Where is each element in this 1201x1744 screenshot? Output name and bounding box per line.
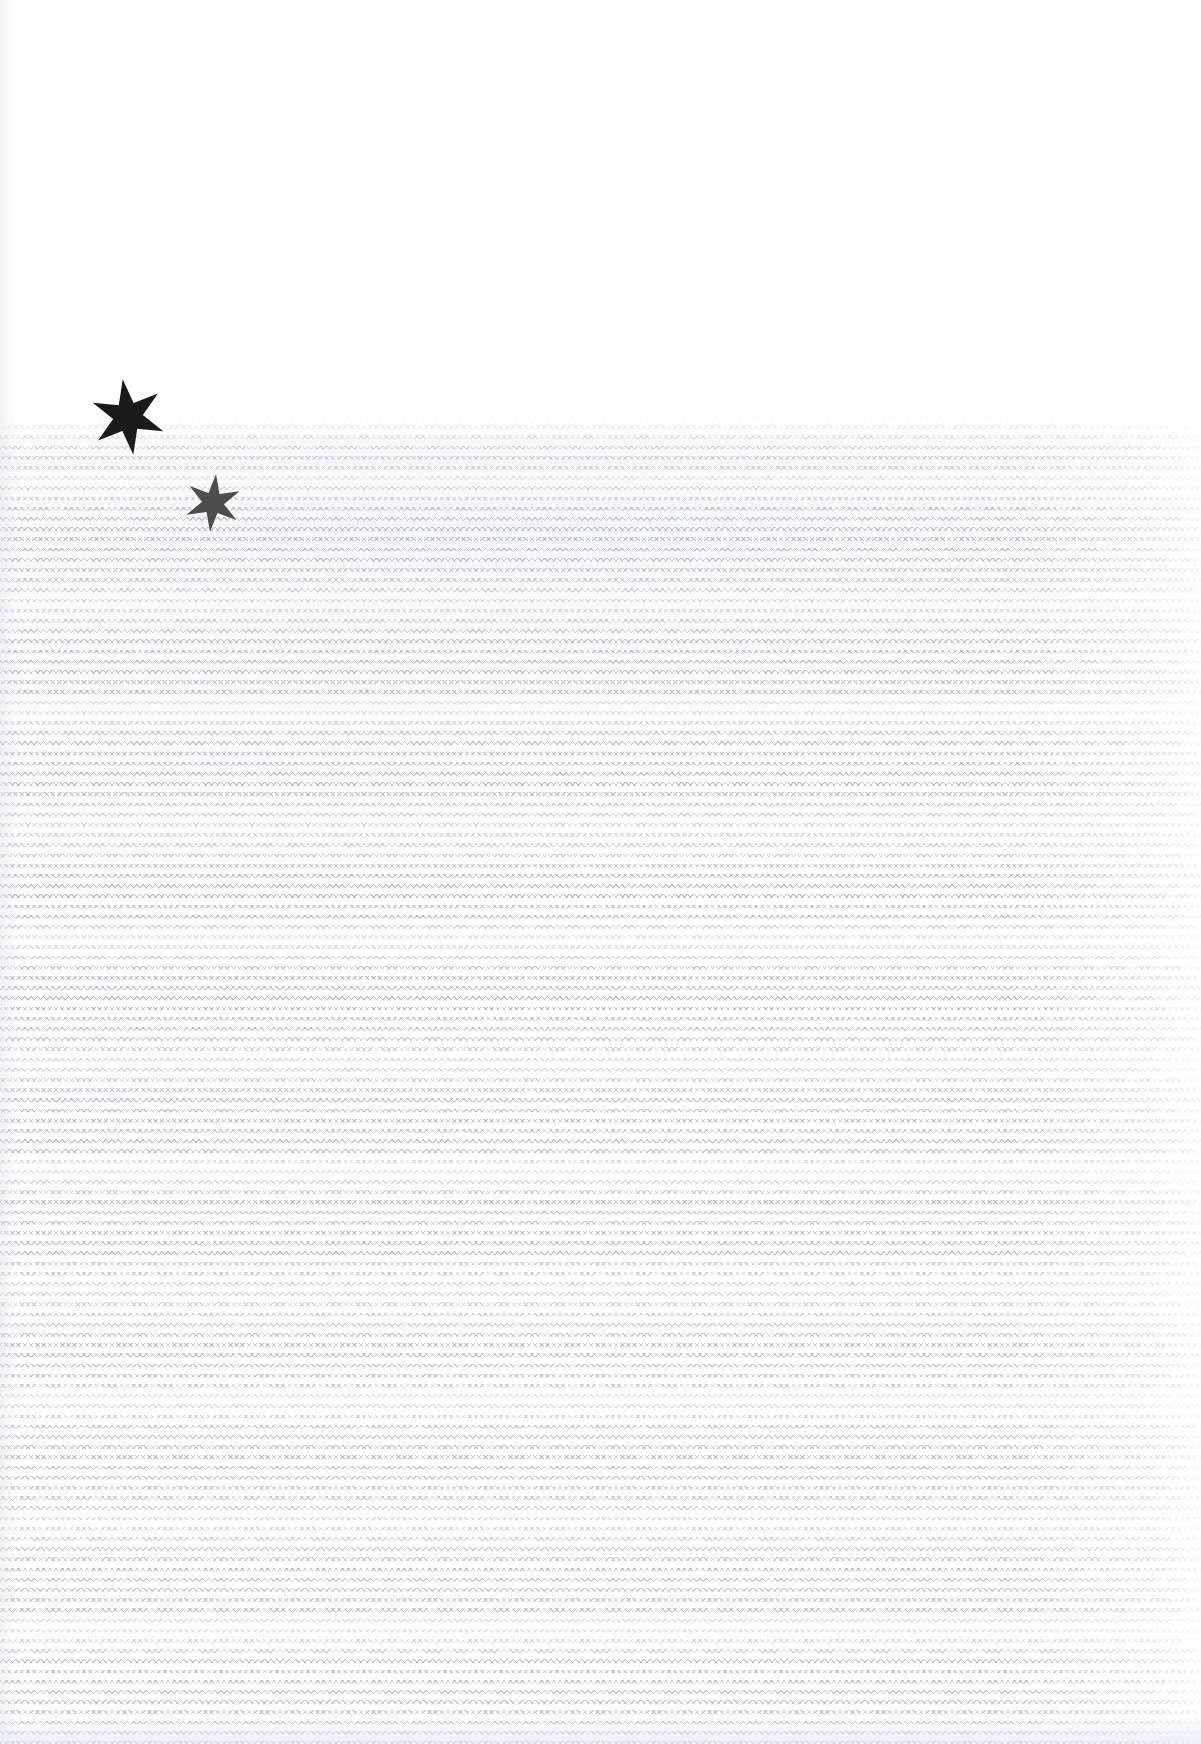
texture-hatch-rows-offset: [0, 415, 1201, 1744]
star-small-shape: [187, 474, 240, 532]
hatched-texture-field: [0, 415, 1201, 1744]
blank-upper-region: [0, 0, 1201, 415]
star-large-shape: [93, 379, 163, 454]
scanned-page: [0, 0, 1201, 1744]
star-mark-small: [178, 468, 248, 538]
star-mark-large: [82, 371, 174, 463]
